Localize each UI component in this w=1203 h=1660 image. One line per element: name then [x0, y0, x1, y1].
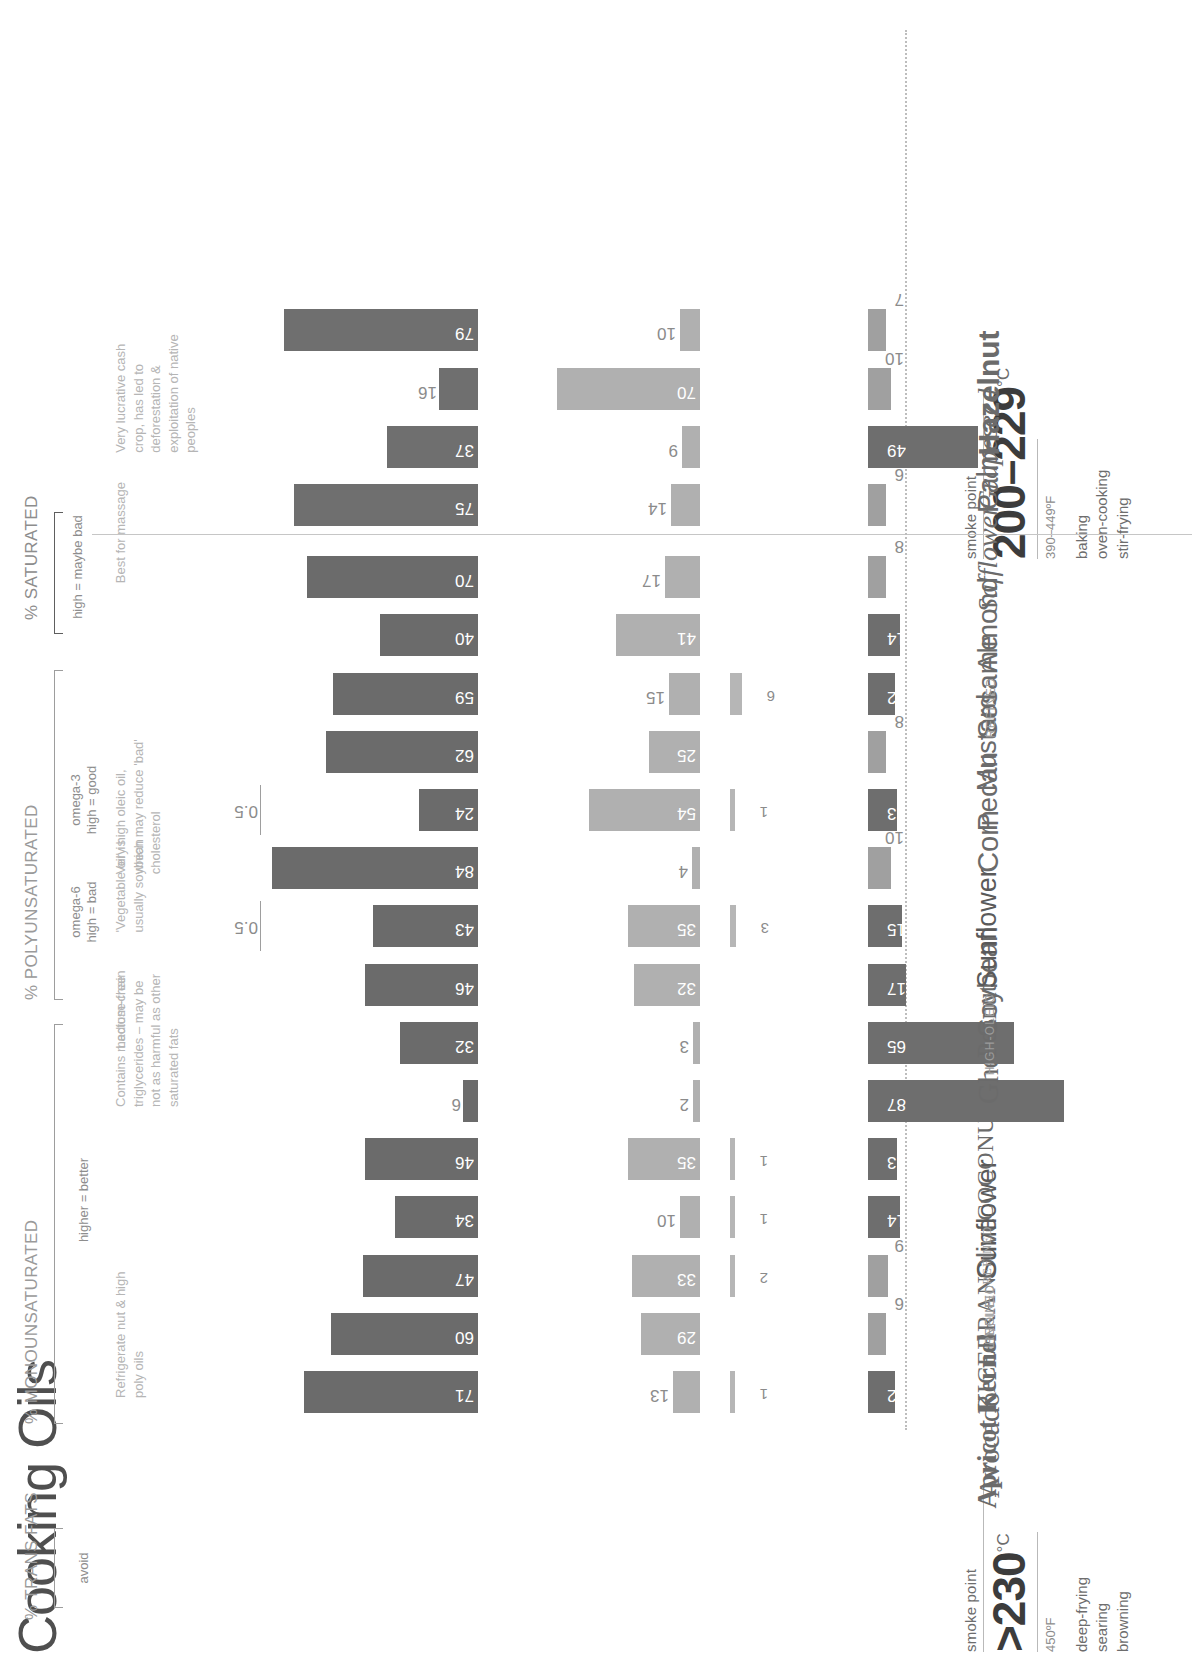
value-omega6-16: 9 — [642, 442, 678, 459]
infographic-canvas: Cooking Oils% SATURATED% POLYUNSATURATED… — [0, 0, 1203, 1660]
bar-omega6-0 — [673, 1371, 700, 1413]
value-saturated-4: 13 — [872, 1154, 906, 1171]
note-0: Refrigerate nut & high poly oils — [112, 1248, 147, 1398]
value-omega6-9: 4 — [652, 863, 688, 880]
bar-omega6-12 — [669, 673, 700, 715]
value-saturated-13: 14 — [872, 630, 906, 647]
use-0-0: deep-frying — [1072, 1422, 1092, 1652]
bar-omega3-0 — [730, 1371, 735, 1413]
value-mono-9: 84 — [434, 863, 474, 880]
value-omega6-4: 35 — [660, 1154, 696, 1171]
sublabel-omega6: omega-6high = bad — [68, 852, 101, 972]
value-saturated-6: 65 — [872, 1038, 906, 1055]
value-transfat-8: 0.5 — [212, 919, 258, 936]
value-omega3-0: 1 — [738, 1387, 768, 1402]
value-saturated-0: 12 — [872, 1387, 906, 1404]
value-omega6-11: 25 — [660, 747, 696, 764]
bar-saturated-9 — [868, 847, 891, 889]
bar-saturated-1 — [868, 1313, 886, 1355]
value-saturated-16: 49 — [872, 442, 906, 459]
value-omega6-17: 70 — [660, 384, 696, 401]
bracket-poly — [54, 670, 63, 1000]
value-saturated-12: 12 — [872, 689, 906, 706]
value-omega6-2: 33 — [660, 1271, 696, 1288]
sublabel-trans: avoid — [76, 1518, 92, 1618]
bracket-saturated — [54, 512, 63, 634]
rule2-1 — [1037, 439, 1038, 559]
note-16: Very lucrative cash crop, has led to def… — [112, 303, 200, 453]
value-omega6-15: 14 — [631, 500, 667, 517]
use-0-1: searing — [1092, 1422, 1112, 1652]
smoke-point-fahrenheit-1: 390–449ºF — [1043, 329, 1058, 559]
note-9: Very high oleic oil, which may reduce 'b… — [112, 724, 165, 874]
value-mono-0: 71 — [434, 1387, 474, 1404]
value-mono-16: 37 — [434, 442, 474, 459]
value-omega3-3: 1 — [738, 1212, 768, 1227]
oil-label-18: Hazelnut — [972, 330, 1005, 455]
value-mono-17: 16 — [397, 384, 437, 401]
oil-name-hazelnut-18: Hazelnut — [972, 330, 1006, 630]
header-monounsaturated: % MONOUNSATURATED — [22, 1219, 42, 1424]
value-mono-6: 32 — [434, 1038, 474, 1055]
value-mono-2: 47 — [434, 1271, 474, 1288]
value-omega6-14: 17 — [625, 572, 661, 589]
value-saturated-17: 10 — [870, 350, 904, 367]
bar-mono-17 — [439, 368, 478, 410]
value-saturated-18: 7 — [870, 291, 904, 308]
value-mono-5: 6 — [421, 1096, 461, 1113]
value-omega6-6: 3 — [653, 1038, 689, 1055]
bar-omega3-3 — [730, 1196, 735, 1238]
transfat-tick-8 — [260, 901, 261, 951]
rule2-0 — [1037, 1532, 1038, 1652]
value-mono-3: 34 — [434, 1212, 474, 1229]
bar-omega3-10 — [730, 789, 735, 831]
value-mono-8: 43 — [434, 921, 474, 938]
value-saturated-3: 14 — [872, 1212, 906, 1229]
value-saturated-14: 8 — [870, 538, 904, 555]
value-mono-11: 62 — [434, 747, 474, 764]
value-saturated-15: 6 — [870, 466, 904, 483]
group-separator — [92, 534, 1192, 535]
use-1-2: stir-frying — [1113, 329, 1133, 559]
value-mono-7: 46 — [434, 980, 474, 997]
transfat-tick-10 — [260, 785, 261, 835]
value-omega6-5: 2 — [653, 1096, 689, 1113]
bar-saturated-2 — [868, 1255, 888, 1297]
value-saturated-1: 6 — [870, 1295, 904, 1312]
value-saturated-5: 87 — [872, 1096, 906, 1113]
value-omega3-2: 2 — [738, 1271, 768, 1286]
value-mono-4: 46 — [434, 1154, 474, 1171]
smoke-point-uses-1: bakingoven-cookingstir-frying — [1072, 329, 1133, 559]
value-saturated-9: 10 — [870, 829, 904, 846]
value-omega6-12: 15 — [629, 689, 665, 706]
value-omega3-8: 3 — [739, 921, 769, 936]
value-mono-14: 70 — [434, 572, 474, 589]
use-1-1: oven-cooking — [1092, 329, 1112, 559]
use-1-0: baking — [1072, 329, 1092, 559]
sublabel-mono: higher = better — [76, 1120, 92, 1280]
value-saturated-7: 17 — [872, 980, 906, 997]
value-saturated-2: 9 — [870, 1237, 904, 1254]
value-omega6-18: 10 — [640, 325, 676, 342]
value-saturated-10: 13 — [872, 805, 906, 822]
bar-omega3-12 — [730, 673, 742, 715]
bar-omega3-2 — [730, 1255, 735, 1297]
bar-omega3-8 — [730, 905, 736, 947]
value-omega6-8: 35 — [660, 921, 696, 938]
value-mono-1: 60 — [434, 1329, 474, 1346]
bracket-mono — [54, 1024, 63, 1424]
value-mono-10: 24 — [434, 805, 474, 822]
bar-saturated-18 — [868, 309, 886, 351]
value-mono-12: 59 — [434, 689, 474, 706]
header-polyunsaturated: % POLYUNSATURATED — [22, 804, 42, 1000]
use-0-2: browning — [1113, 1422, 1133, 1652]
value-omega6-0: 13 — [633, 1387, 669, 1404]
value-omega3-10: 1 — [738, 805, 768, 820]
bar-saturated-11 — [868, 731, 886, 773]
value-saturated-11: 8 — [870, 713, 904, 730]
bar-omega6-9 — [692, 847, 700, 889]
bar-omega6-16 — [682, 426, 700, 468]
bar-mono-5 — [463, 1080, 478, 1122]
bar-omega3-4 — [730, 1138, 735, 1180]
bar-omega6-3 — [680, 1196, 701, 1238]
